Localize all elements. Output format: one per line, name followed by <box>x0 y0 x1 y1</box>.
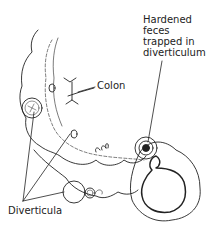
diverticulum-small <box>49 84 55 92</box>
colon-inner-line <box>53 38 62 126</box>
large-diverticulum-inner <box>142 156 186 212</box>
leader-lines-diverticula <box>23 112 70 201</box>
label-colon: Colon <box>97 80 125 91</box>
label-hardened-feces: Hardened feces trapped in diverticulum <box>143 14 206 58</box>
large-diverticulum-outer <box>130 142 200 221</box>
small-pouches <box>95 144 108 153</box>
haustra-folds <box>64 78 94 104</box>
diverticulum-lower-small <box>85 188 95 198</box>
label-line-4: diverticulum <box>143 47 206 58</box>
label-line-3: trapped in <box>143 36 206 47</box>
colon-outer-wall-top <box>20 30 146 165</box>
label-line-1: Hardened <box>143 14 206 25</box>
label-line-2: feces <box>143 25 206 36</box>
diverticulum-middle <box>71 130 77 138</box>
label-diverticula: Diverticula <box>8 205 62 216</box>
leader-line-colon <box>78 87 95 92</box>
diagram-canvas: Hardened feces trapped in diverticulum C… <box>0 0 213 236</box>
hardened-feces <box>143 145 150 152</box>
leader-line-feces <box>148 61 162 142</box>
colon-lumen-dashed <box>45 40 144 160</box>
